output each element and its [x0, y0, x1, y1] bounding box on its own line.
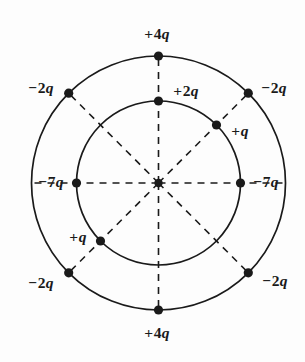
charge-magnitude-outer-bottom-right: 2	[272, 272, 280, 289]
charge-label-outer-top-right: −2q	[261, 80, 286, 96]
charge-symbol-inner-left: q	[56, 173, 64, 190]
charge-label-outer-bottom: +4q	[144, 325, 169, 341]
charge-dot-outer-top-left[interactable]	[64, 89, 73, 98]
charge-label-inner-right: −7q	[253, 174, 278, 190]
charge-magnitude-outer-bottom-left: 2	[38, 274, 46, 291]
spoke-line-135deg	[69, 93, 159, 183]
charge-magnitude-inner-left: 7	[48, 173, 56, 190]
charge-label-outer-bottom-right: −2q	[262, 273, 287, 289]
charge-magnitude-inner-right: 7	[263, 173, 271, 190]
charge-symbol-outer-bottom: q	[162, 324, 170, 341]
charge-dot-inner-bottom-left[interactable]	[96, 236, 105, 245]
charge-symbol-outer-bottom-right: q	[280, 272, 288, 289]
charge-label-inner-left: −7q	[38, 174, 63, 190]
charge-label-inner-top-right: +q	[231, 123, 249, 139]
charge-sign-outer-bottom-right: −	[262, 272, 271, 289]
center-point-dot	[154, 179, 162, 187]
charge-label-outer-top: +4q	[144, 26, 169, 42]
charge-sign-inner-right: −	[253, 173, 262, 190]
charge-magnitude-outer-bottom: 4	[154, 324, 162, 341]
charge-magnitude-outer-top-left: 2	[38, 79, 46, 96]
charge-dot-inner-top-right[interactable]	[212, 120, 221, 129]
charge-sign-inner-top-right: +	[231, 122, 240, 139]
charge-sign-outer-top-left: −	[28, 79, 37, 96]
charge-label-inner-top: +2q	[173, 83, 198, 99]
charge-symbol-outer-bottom-left: q	[46, 274, 54, 291]
charge-magnitude-outer-top-right: 2	[271, 79, 279, 96]
charge-label-inner-bottom-left: +q	[69, 229, 87, 245]
charge-dot-outer-top[interactable]	[154, 51, 163, 60]
charge-sign-inner-bottom-left: +	[69, 228, 78, 245]
charge-symbol-inner-top: q	[191, 82, 199, 99]
charge-dot-inner-top[interactable]	[154, 96, 163, 105]
charge-dot-outer-bottom-right[interactable]	[244, 268, 253, 277]
charge-symbol-inner-right: q	[271, 173, 279, 190]
charge-dot-inner-left[interactable]	[72, 178, 81, 187]
spoke-line-315deg	[159, 183, 249, 273]
charge-sign-outer-bottom-left: −	[28, 274, 37, 291]
charge-sign-outer-top-right: −	[261, 79, 270, 96]
charge-sign-inner-top: +	[173, 82, 182, 99]
charge-symbol-outer-top-right: q	[279, 79, 287, 96]
charge-sign-inner-left: −	[38, 173, 47, 190]
charge-label-outer-top-left: −2q	[28, 80, 53, 96]
charge-magnitude-outer-top: 4	[154, 25, 162, 42]
charge-dot-outer-bottom-left[interactable]	[64, 268, 73, 277]
charge-sign-outer-bottom: +	[144, 324, 153, 341]
charge-dot-outer-bottom[interactable]	[154, 305, 163, 314]
charge-label-outer-bottom-left: −2q	[28, 275, 53, 291]
charge-symbol-outer-top: q	[162, 25, 170, 42]
charge-symbol-inner-bottom-left: q	[79, 228, 87, 245]
charge-symbol-inner-top-right: q	[241, 122, 249, 139]
charge-dot-outer-top-right[interactable]	[244, 89, 253, 98]
charge-symbol-outer-top-left: q	[46, 79, 54, 96]
charge-sign-outer-top: +	[144, 25, 153, 42]
charge-ring-diagram: +4q−2q−2q−2q−2q+4q+2q+q−7q−7q+q	[0, 0, 305, 362]
charge-dot-inner-right[interactable]	[236, 178, 245, 187]
charge-magnitude-inner-top: 2	[183, 82, 191, 99]
